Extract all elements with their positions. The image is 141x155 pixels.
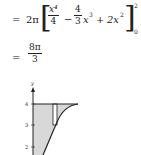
equals-sign: = <box>12 14 20 25</box>
x-variable: x <box>83 14 89 25</box>
representative-rectangle <box>53 104 57 125</box>
equation-line-2: = 8π 3 <box>4 40 141 74</box>
minus-sign: − <box>64 14 72 25</box>
two-pi: 2π <box>26 14 39 25</box>
region-graph: y 4 3 2 <box>0 80 141 155</box>
fraction-4-over-3: 4 3 <box>74 4 82 27</box>
fraction-x4-over-4: x⁴ 4 <box>48 4 59 27</box>
tick-label-4: 4 <box>25 101 28 107</box>
upper-limit: 2 <box>134 2 138 9</box>
tick-label-3: 3 <box>25 122 28 128</box>
equation-line-1: = 2π [ x⁴ 4 − 4 3 x 3 + 2x 2 ] 2 0 <box>4 2 141 36</box>
y-axis-label: y <box>30 80 34 87</box>
equals-sign: = <box>12 52 20 63</box>
plus-sign: + <box>96 14 104 25</box>
exponent-3: 3 <box>89 11 93 18</box>
tick-label-2: 2 <box>25 144 28 150</box>
y-axis-arrow-icon <box>31 87 35 92</box>
two-x: 2x <box>107 14 119 25</box>
result-fraction: 8π 3 <box>28 42 42 65</box>
lower-limit: 0 <box>134 28 138 35</box>
